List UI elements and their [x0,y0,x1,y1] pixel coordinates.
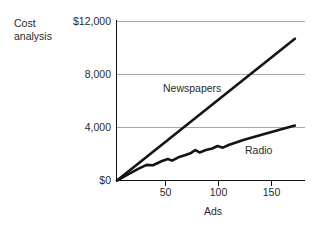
y-tick-label-12000: $12,000 [73,15,111,27]
x-tick-label-150: 150 [263,186,281,198]
y-tick-label-8000: 8,000 [85,68,111,80]
x-axis-title: Ads [204,205,222,217]
gridlines [117,22,305,128]
series-label-newspapers: Newspapers [163,82,221,94]
x-tick-label-50: 50 [160,186,172,198]
y-axis-labels: $12,000 8,000 4,000 $0 [73,15,111,186]
x-tick-label-100: 100 [210,186,228,198]
y-tick-label-0: $0 [99,174,111,186]
y-tick-label-4000: 4,000 [85,121,111,133]
chart-container: Cost analysis $12,000 8,000 4,000 $0 [0,0,316,235]
chart-plot-area: $12,000 8,000 4,000 $0 50 100 150 Newspa… [0,0,316,235]
x-axis-labels: 50 100 150 [160,186,281,198]
axes [116,20,305,181]
series-line-newspapers [117,39,295,181]
series-label-radio: Radio [245,144,273,156]
data-series [117,39,295,181]
